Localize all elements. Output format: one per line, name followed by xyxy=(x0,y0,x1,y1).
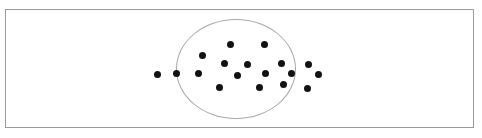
data-point xyxy=(288,70,295,77)
data-point xyxy=(244,61,251,68)
data-point xyxy=(261,41,268,48)
data-point xyxy=(154,71,161,78)
data-point xyxy=(227,41,234,48)
figure-root xyxy=(0,0,482,138)
data-point xyxy=(234,72,241,79)
data-point xyxy=(304,85,311,92)
data-point xyxy=(262,70,269,77)
data-point xyxy=(305,61,312,68)
scatter-plot-area xyxy=(0,0,482,138)
data-point xyxy=(195,70,202,77)
data-point xyxy=(216,84,223,91)
data-point xyxy=(199,52,206,59)
data-point xyxy=(280,81,287,88)
data-point xyxy=(315,71,322,78)
data-point xyxy=(221,60,228,67)
data-point xyxy=(278,60,285,67)
cluster-boundary xyxy=(176,19,296,119)
data-point xyxy=(256,84,263,91)
data-point xyxy=(173,70,180,77)
